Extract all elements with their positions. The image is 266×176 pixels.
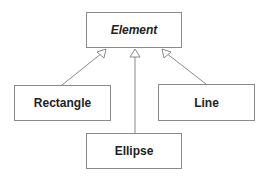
class-ellipse: Ellipse <box>86 133 182 169</box>
class-line: Line <box>158 84 255 121</box>
connector-line-element <box>166 53 206 84</box>
generalization-arrow-icon <box>130 49 140 57</box>
connector-rectangle-element <box>62 53 102 85</box>
generalization-arrow-icon <box>162 49 171 58</box>
class-name: Rectangle <box>34 96 91 110</box>
class-name: Ellipse <box>115 144 154 158</box>
class-element: Element <box>86 12 182 48</box>
class-name: Element <box>111 23 158 37</box>
generalization-arrow-icon <box>97 49 106 58</box>
class-rectangle: Rectangle <box>14 85 111 121</box>
class-name: Line <box>194 96 219 110</box>
